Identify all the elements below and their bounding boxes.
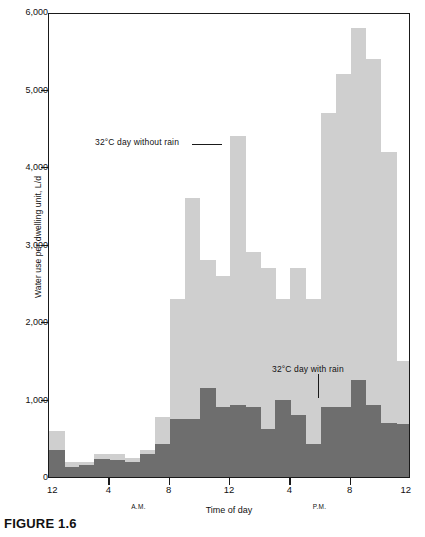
bar-with-rain [185, 419, 201, 477]
bar-with-rain [215, 407, 231, 477]
plot-area [48, 13, 410, 478]
x-tick-label: 8 [157, 484, 181, 495]
bar-with-rain [336, 407, 352, 477]
bar-with-rain [290, 415, 306, 477]
bar-with-rain [305, 444, 321, 477]
bar-with-rain [275, 400, 291, 478]
bar-with-rain [124, 462, 140, 478]
x-axis-title: Time of day [48, 505, 410, 515]
y-tick-mark [41, 90, 48, 91]
bar-with-rain [79, 465, 95, 477]
bar-with-rain [49, 450, 65, 477]
bar-with-rain [140, 454, 156, 477]
bar-with-rain [321, 407, 337, 477]
annotation-with-rain: 32°C day with rain [272, 364, 344, 374]
bar-with-rain [366, 405, 382, 477]
bar-with-rain [381, 423, 397, 477]
y-tick-mark [41, 245, 48, 246]
bar-with-rain [170, 419, 186, 477]
bar-with-rain [94, 459, 110, 477]
x-tick-label: 8 [338, 484, 362, 495]
x-tick-label: 4 [277, 484, 301, 495]
annotation-without-rain-leader-line [192, 144, 222, 145]
x-tick-label: 12 [47, 484, 71, 495]
y-tick-mark [41, 322, 48, 323]
bar-with-rain [396, 424, 410, 477]
bar-with-rain [155, 444, 171, 477]
bar-with-rain [260, 429, 276, 477]
y-tick-mark [41, 400, 48, 401]
bar-with-rain [351, 380, 367, 477]
y-axis-title: Water use per dwelling unit, L/d [33, 107, 43, 367]
bar-with-rain [109, 460, 125, 477]
bar-with-rain [200, 388, 216, 477]
bar-with-rain [230, 405, 246, 477]
annotation-without-rain: 32°C day without rain [95, 137, 179, 147]
figure-caption: FIGURE 1.6 [4, 516, 77, 531]
y-tick-mark [41, 167, 48, 168]
figure-container: Water use per dwelling unit, L/d 01,0002… [0, 0, 425, 537]
x-tick-label: 12 [217, 484, 241, 495]
x-tick-label: 12 [387, 484, 411, 495]
x-tick-label: 4 [96, 484, 120, 495]
bar-with-rain [64, 467, 80, 477]
y-tick-label: 6,000 [14, 8, 48, 17]
bar-with-rain [245, 407, 261, 477]
y-tick-label: 0 [14, 473, 48, 482]
bars-layer [49, 14, 409, 477]
annotation-with-rain-leader-line [318, 374, 319, 398]
